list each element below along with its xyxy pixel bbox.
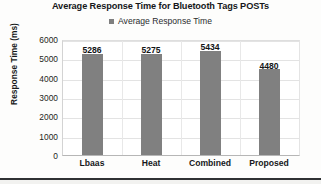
bar-proposed [259,69,280,155]
y-tick-label-2000: 2000 [18,112,58,122]
bar-chart: Average Response Time for Bluetooth Tags… [0,0,321,184]
y-tick-label-5000: 5000 [18,54,58,64]
chart-legend: Average Response Time [0,16,321,26]
page-edge-line [0,178,321,180]
bar-lbaas [82,54,103,155]
y-tick-label-4000: 4000 [18,74,58,84]
page-edge-highlight [0,180,321,184]
gridline-vertical-3 [240,41,241,155]
bar-value-proposed: 4480 [246,61,292,71]
y-tick-label-0: 0 [18,151,58,161]
chart-title: Average Response Time for Bluetooth Tags… [0,1,321,11]
bar-heat [141,54,162,155]
y-tick-label-1000: 1000 [18,132,58,142]
legend-label-average-response-time: Average Response Time [118,16,212,26]
legend-swatch-icon [109,19,114,24]
gridline-vertical-1 [122,41,123,155]
y-tick-label-6000: 6000 [18,35,58,45]
bar-value-heat: 5275 [128,45,174,55]
bar-combined [200,51,221,155]
x-tick-label-proposed: Proposed [231,158,307,168]
bar-value-lbaas: 5286 [69,45,115,55]
bar-value-combined: 5434 [187,42,233,52]
plot-area [62,40,300,156]
gridline-vertical-2 [181,41,182,155]
y-tick-label-3000: 3000 [18,93,58,103]
